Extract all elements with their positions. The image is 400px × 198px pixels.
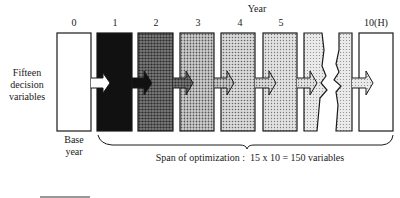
year-label-4: 4: [228, 17, 252, 28]
year-label-1: 1: [103, 17, 127, 28]
left-label-line-1: Fifteen: [2, 67, 52, 78]
year-9-broken-box: [334, 33, 352, 131]
base-year-label-line-2: year: [54, 146, 94, 157]
year-0-box: [57, 33, 91, 131]
year-label-0: 0: [62, 17, 86, 28]
left-label-line-3: variables: [2, 91, 52, 102]
year-label-2: 2: [144, 17, 168, 28]
year-label-5: 5: [269, 17, 293, 28]
optimization-span-brace: [98, 135, 393, 149]
year-label-10-horizon: 10(H): [356, 17, 396, 28]
decision-horizon-diagram: [0, 0, 400, 198]
axis-title-year: Year: [237, 3, 277, 14]
base-year-label-line-1: Base: [54, 134, 94, 145]
left-label-line-2: decision: [2, 79, 52, 90]
optimization-span-label: Span of optimization : 15 x 10 = 150 var…: [120, 152, 380, 163]
year-label-3: 3: [186, 17, 210, 28]
